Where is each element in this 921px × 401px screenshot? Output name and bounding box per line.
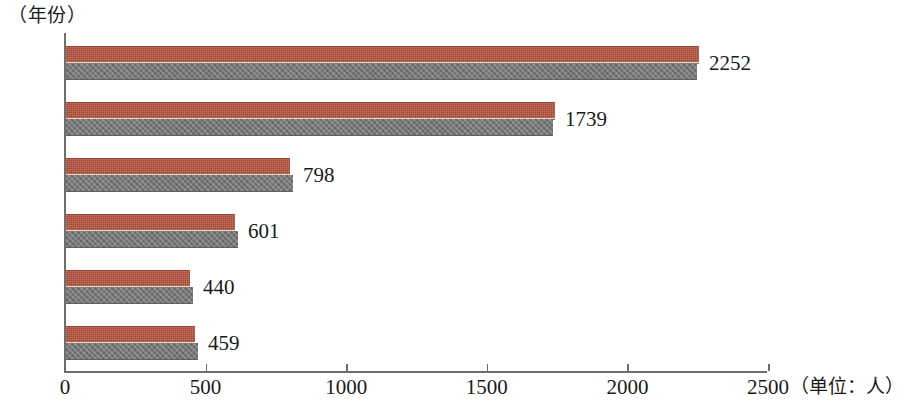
x-axis: 05001000150020002500 （单位：人）: [0, 371, 921, 401]
bar-band-separator: [66, 342, 195, 343]
x-tick-label-2000: 2000: [606, 374, 648, 400]
x-tick-label-2500: 2500: [747, 374, 789, 400]
value-label-2015: 440: [203, 272, 235, 302]
bar-bottom-band: [66, 175, 293, 192]
bar-2019: [66, 46, 699, 80]
x-axis-line: [64, 371, 767, 373]
value-label-2018: 1739: [565, 104, 607, 134]
x-tick-label-0: 0: [60, 374, 71, 400]
x-tick-label-500: 500: [190, 374, 222, 400]
y-axis-caption: （年份）: [8, 2, 86, 28]
x-tick-label-1500: 1500: [466, 374, 508, 400]
bar-band-separator: [66, 62, 699, 63]
x-tick: [627, 364, 629, 371]
bar-chart: （年份） 20192252201817392017798201660120154…: [0, 0, 921, 401]
plot-area: 2019225220181739201779820166012015440201…: [0, 33, 921, 371]
bar-2017: [66, 158, 290, 192]
bar-bottom-band: [66, 287, 193, 304]
x-tick: [768, 364, 770, 371]
x-tick: [346, 364, 348, 371]
x-tick-label-1000: 1000: [325, 374, 367, 400]
bar-band-separator: [66, 174, 290, 175]
bar-2016: [66, 214, 235, 248]
x-tick: [487, 364, 489, 371]
bar-bottom-band: [66, 63, 697, 80]
y-axis-line: [64, 33, 66, 371]
bar-2015: [66, 270, 190, 304]
bar-band-separator: [66, 118, 555, 119]
bar-2018: [66, 102, 555, 136]
value-label-2014: 459: [208, 328, 240, 358]
bar-bottom-band: [66, 119, 553, 136]
bar-bottom-band: [66, 343, 198, 360]
x-axis-unit-caption: （单位：人）: [790, 373, 904, 399]
value-label-2019: 2252: [709, 48, 751, 78]
bar-2014: [66, 326, 195, 360]
value-label-2017: 798: [303, 160, 335, 190]
bar-band-separator: [66, 230, 235, 231]
bar-band-separator: [66, 286, 190, 287]
value-label-2016: 601: [248, 216, 280, 246]
bar-bottom-band: [66, 231, 238, 248]
x-tick: [206, 364, 208, 371]
